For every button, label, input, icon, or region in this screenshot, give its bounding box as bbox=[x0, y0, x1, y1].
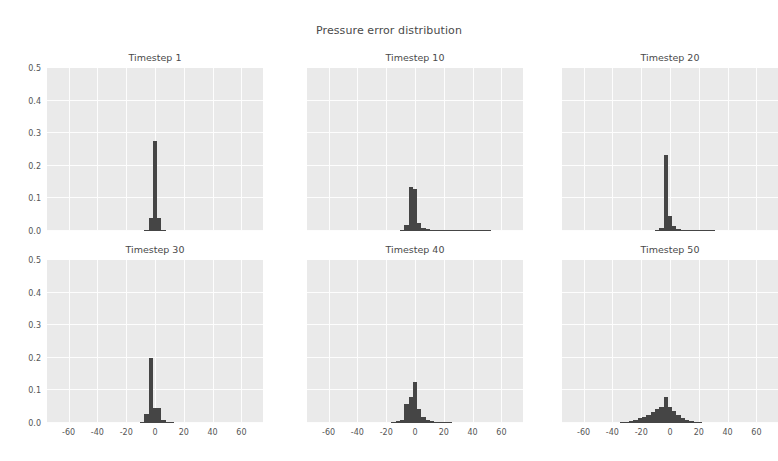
x-axis-tick-label: -40 bbox=[606, 428, 619, 437]
axes-background bbox=[47, 260, 263, 423]
subplot-timestep-50: Timestep 50 bbox=[562, 260, 778, 423]
subplot-timestep-1: Timestep 1 bbox=[47, 68, 263, 231]
x-axis-tick-label: -20 bbox=[635, 428, 648, 437]
figure-canvas: Pressure error distribution Timestep 10.… bbox=[0, 0, 778, 461]
y-axis-tick-label: 0.1 bbox=[28, 194, 41, 203]
y-axis-tick-labels: 0.00.10.20.30.40.5 bbox=[15, 68, 45, 231]
histogram-bar bbox=[486, 230, 490, 231]
x-axis-tick-label: -60 bbox=[322, 428, 335, 437]
y-axis-tick-labels: 0.00.10.20.30.40.5 bbox=[15, 260, 45, 423]
x-axis-tick-label: 0 bbox=[667, 428, 672, 437]
x-axis-tick-labels: -60-40-200204060 bbox=[47, 423, 263, 437]
x-axis-tick-label: -20 bbox=[380, 428, 393, 437]
y-axis-tick-label: 0.1 bbox=[28, 386, 41, 395]
subplot-timestep-10: Timestep 10 bbox=[307, 68, 523, 231]
x-axis-tick-label: 60 bbox=[751, 428, 761, 437]
x-axis-tick-label: 0 bbox=[412, 428, 417, 437]
histogram-bars bbox=[307, 260, 523, 423]
x-axis-tick-label: 20 bbox=[179, 428, 189, 437]
subplot-title: Timestep 50 bbox=[562, 244, 778, 255]
histogram-bars bbox=[47, 260, 263, 423]
x-axis-tick-label: 60 bbox=[236, 428, 246, 437]
y-axis-tick-label: 0.5 bbox=[28, 64, 41, 73]
subplot-title: Timestep 10 bbox=[307, 52, 523, 63]
x-axis-tick-labels: -60-40-200204060 bbox=[307, 423, 523, 437]
histogram-bars bbox=[307, 68, 523, 231]
y-axis-tick-label: 0.4 bbox=[28, 96, 41, 105]
y-axis-tick-label: 0.3 bbox=[28, 321, 41, 330]
axes-background bbox=[47, 68, 263, 231]
x-axis-tick-label: 40 bbox=[468, 428, 478, 437]
y-axis-tick-label: 0.3 bbox=[28, 129, 41, 138]
x-axis-tick-label: 40 bbox=[723, 428, 733, 437]
figure-title: Pressure error distribution bbox=[0, 24, 778, 37]
x-axis-tick-label: -40 bbox=[91, 428, 104, 437]
y-axis-tick-label: 0.5 bbox=[28, 256, 41, 265]
histogram-bar bbox=[161, 230, 165, 231]
x-axis-tick-label: -40 bbox=[351, 428, 364, 437]
subplot-title: Timestep 20 bbox=[562, 52, 778, 63]
subplot-title: Timestep 30 bbox=[47, 244, 263, 255]
axes-background bbox=[307, 68, 523, 231]
subplot-title: Timestep 1 bbox=[47, 52, 263, 63]
subplot-timestep-20: Timestep 20 bbox=[562, 68, 778, 231]
histogram-bar bbox=[711, 230, 715, 231]
x-axis-tick-label: 20 bbox=[694, 428, 704, 437]
y-axis-tick-label: 0.0 bbox=[28, 227, 41, 236]
y-axis-tick-label: 0.0 bbox=[28, 419, 41, 428]
subplot-timestep-30: Timestep 30 bbox=[47, 260, 263, 423]
x-axis-tick-label: 0 bbox=[152, 428, 157, 437]
y-axis-tick-label: 0.2 bbox=[28, 353, 41, 362]
x-axis-tick-label: 20 bbox=[439, 428, 449, 437]
y-axis-tick-label: 0.4 bbox=[28, 288, 41, 297]
x-axis-tick-label: 60 bbox=[496, 428, 506, 437]
axes-background bbox=[562, 260, 778, 423]
histogram-bars bbox=[562, 260, 778, 423]
histogram-bars bbox=[562, 68, 778, 231]
x-axis-tick-label: 40 bbox=[208, 428, 218, 437]
axes-background bbox=[562, 68, 778, 231]
x-axis-tick-label: -60 bbox=[62, 428, 75, 437]
subplot-title: Timestep 40 bbox=[307, 244, 523, 255]
x-axis-tick-labels: -60-40-200204060 bbox=[562, 423, 778, 437]
x-axis-tick-label: -20 bbox=[120, 428, 133, 437]
histogram-bars bbox=[47, 68, 263, 231]
axes-background bbox=[307, 260, 523, 423]
x-axis-tick-label: -60 bbox=[577, 428, 590, 437]
subplot-timestep-40: Timestep 40 bbox=[307, 260, 523, 423]
y-axis-tick-label: 0.2 bbox=[28, 161, 41, 170]
